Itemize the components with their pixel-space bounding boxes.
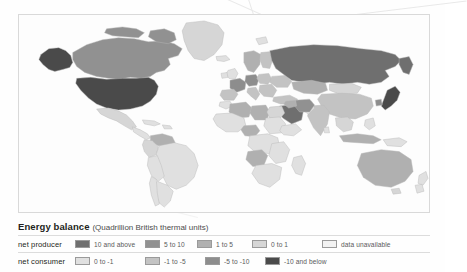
map-svg	[19, 15, 429, 212]
region-spain-portugal	[220, 89, 238, 100]
world-choropleth-map	[18, 14, 430, 213]
legend-swatch	[75, 257, 90, 265]
legend-swatch-label: 0 to 1	[271, 241, 288, 248]
legend-item-data-unavailable[interactable]: data unavailable	[322, 240, 391, 248]
region-tasmania	[391, 188, 401, 194]
legend-swatch-label: -1 to -5	[164, 258, 186, 265]
region-ireland	[221, 72, 228, 78]
legend-item-producer-5-to-10[interactable]: 5 to 10	[145, 240, 197, 248]
legend-swatch	[197, 240, 212, 248]
legend-title-units: (Quadrillion British thermal units)	[92, 223, 208, 232]
legend-swatch	[265, 257, 280, 265]
legend-swatch-label: data unavailable	[341, 241, 391, 248]
legend-row-label: net producer	[18, 240, 75, 249]
region-sri-lanka	[324, 127, 330, 133]
legend-title: Energy balance (Quadrillion British ther…	[18, 221, 430, 235]
legend-item-producer-10-and-above[interactable]: 10 and above	[75, 240, 145, 248]
legend-swatch	[252, 240, 267, 248]
legend-swatch-label: 10 and above	[94, 241, 135, 248]
legend-swatch	[322, 240, 337, 248]
legend-title-text: Energy balance	[18, 221, 90, 232]
legend-item-consumer-minus-1-to-minus-5[interactable]: -1 to -5	[145, 257, 205, 265]
legend-item-consumer-0-to-minus-1[interactable]: 0 to -1	[75, 257, 145, 265]
legend-item-producer-1-to-5[interactable]: 1 to 5	[197, 240, 252, 248]
legend-swatch	[145, 240, 160, 248]
legend-items-net-producer: 10 and above 5 to 10 1 to 5 0 to 1 data …	[75, 240, 391, 248]
legend-swatch-label: 1 to 5	[216, 241, 233, 248]
legend-row-net-consumer: net consumer 0 to -1 -1 to -5 -5 to -10 …	[18, 252, 430, 269]
legend-swatch-label: -10 and below	[284, 258, 327, 265]
legend-row-label: net consumer	[18, 257, 75, 266]
region-russia	[270, 45, 401, 85]
legend-item-consumer-minus-5-to-minus-10[interactable]: -5 to -10	[205, 257, 265, 265]
legend-swatch-label: -5 to -10	[224, 258, 249, 265]
legend-row-net-producer: net producer 10 and above 5 to 10 1 to 5…	[18, 235, 430, 252]
legend-swatch-label: 0 to -1	[94, 258, 113, 265]
legend-items-net-consumer: 0 to -1 -1 to -5 -5 to -10 -10 and below	[75, 257, 327, 265]
map-legend: Energy balance (Quadrillion British ther…	[18, 221, 430, 269]
legend-swatch	[75, 240, 90, 248]
legend-swatch	[205, 257, 220, 265]
region-south-korea	[375, 99, 382, 106]
legend-swatch	[145, 257, 160, 265]
legend-item-producer-0-to-1[interactable]: 0 to 1	[252, 240, 322, 248]
legend-item-consumer-minus-10-and-below[interactable]: -10 and below	[265, 257, 327, 265]
legend-swatch-label: 5 to 10	[164, 241, 185, 248]
